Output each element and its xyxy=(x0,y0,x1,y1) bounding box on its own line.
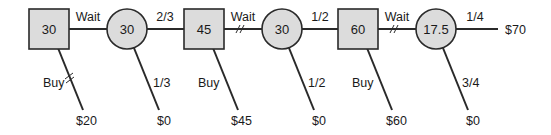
decision-node-3: 60 xyxy=(338,9,378,49)
branch-label-buy-1: Buy xyxy=(43,76,65,90)
branch-label-buy-3: Buy xyxy=(352,76,374,90)
branch-label-1-2-down: 1/2 xyxy=(308,76,325,90)
payoff-3-4: $0 xyxy=(466,114,480,128)
decision-node-1-value: 30 xyxy=(42,22,56,37)
payoff-1-2-down: $0 xyxy=(312,114,326,128)
edge-label-wait-2: Wait xyxy=(231,10,256,24)
decision-node-2: 45 xyxy=(184,9,224,49)
payoff-buy-1: $20 xyxy=(76,114,97,128)
edge-label-2-3: 2/3 xyxy=(156,10,173,24)
diagram-canvas: 30 45 60 30 30 17.5 Wait 2/3 Wait 1/2 Wa… xyxy=(0,0,551,135)
edge-label-wait-1: Wait xyxy=(76,10,101,24)
chance-node-1: 30 xyxy=(107,9,147,49)
edge-label-1-4: 1/4 xyxy=(466,10,483,24)
payoff-buy-3: $60 xyxy=(386,114,407,128)
decision-node-2-value: 45 xyxy=(197,22,211,37)
edge-label-wait-3: Wait xyxy=(385,10,410,24)
branch-label-3-4: 3/4 xyxy=(462,76,479,90)
chance-node-2: 30 xyxy=(262,9,302,49)
payoff-1-3: $0 xyxy=(157,114,171,128)
chance-node-1-value: 30 xyxy=(120,22,134,37)
decision-tree-diagram: 30 45 60 30 30 17.5 Wait 2/3 Wait 1/2 Wa… xyxy=(0,0,551,135)
payoff-top: $70 xyxy=(505,23,526,37)
decision-node-3-value: 60 xyxy=(351,22,365,37)
chance-node-2-value: 30 xyxy=(275,22,289,37)
edge-label-1-2-top: 1/2 xyxy=(311,10,328,24)
payoff-buy-2: $45 xyxy=(231,114,252,128)
decision-node-1: 30 xyxy=(29,9,69,49)
branch-label-buy-2: Buy xyxy=(198,76,220,90)
branch-label-1-3: 1/3 xyxy=(153,76,170,90)
chance-node-3-value: 17.5 xyxy=(423,22,448,37)
chance-node-3: 17.5 xyxy=(416,9,456,49)
